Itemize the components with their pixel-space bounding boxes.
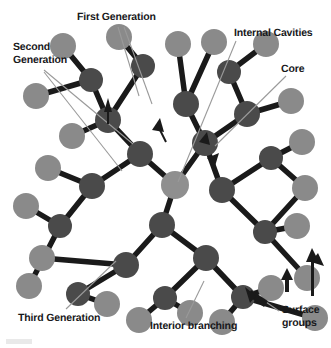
page-artifact bbox=[6, 339, 32, 344]
terminal-sphere bbox=[35, 155, 61, 181]
terminal-sphere bbox=[13, 193, 39, 219]
terminal-sphere bbox=[201, 29, 227, 55]
branch-node bbox=[173, 91, 199, 117]
terminal-sphere bbox=[294, 265, 320, 291]
branch-node bbox=[113, 252, 139, 278]
label-interior-branching: Interior branching bbox=[150, 320, 237, 333]
branch-node bbox=[149, 212, 175, 238]
label-second-generation: Second Generation bbox=[13, 41, 67, 66]
branch-node bbox=[127, 141, 153, 167]
terminal-sphere bbox=[126, 307, 152, 333]
terminal-sphere bbox=[278, 88, 304, 114]
branch-node bbox=[153, 286, 177, 310]
branch-node bbox=[79, 68, 103, 92]
terminal-sphere bbox=[284, 213, 310, 239]
branch-node bbox=[48, 214, 72, 238]
branch-node bbox=[193, 245, 219, 271]
terminal-sphere bbox=[16, 273, 42, 299]
branch-node bbox=[66, 282, 90, 306]
label-surface-groups: Surface groups bbox=[282, 304, 319, 329]
branch-node bbox=[209, 177, 235, 203]
label-core: Core bbox=[281, 63, 304, 76]
core-sphere bbox=[161, 171, 189, 199]
branch-node bbox=[217, 60, 241, 84]
branch-node bbox=[79, 173, 105, 199]
terminal-sphere bbox=[59, 123, 85, 149]
branch-node bbox=[259, 146, 283, 170]
terminal-sphere bbox=[289, 129, 315, 155]
terminal-sphere bbox=[292, 175, 318, 201]
terminal-sphere bbox=[29, 245, 55, 271]
label-third-generation: Third Generation bbox=[18, 312, 100, 325]
arrow-shaft-surface-right bbox=[311, 258, 314, 296]
terminal-sphere bbox=[23, 83, 49, 109]
dendrimer-figure: First Generation Second Generation Inter… bbox=[0, 0, 331, 348]
branch-node bbox=[253, 220, 277, 244]
label-first-generation: First Generation bbox=[77, 11, 156, 24]
terminal-sphere bbox=[165, 31, 191, 57]
label-internal-cavities: Internal Cavities bbox=[234, 27, 313, 40]
